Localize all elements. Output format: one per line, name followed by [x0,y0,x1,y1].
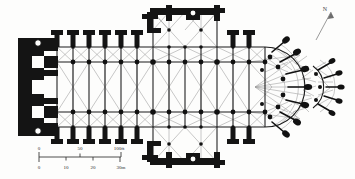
transept-buttress-n3-head [209,8,225,13]
chapel-pier [314,98,318,102]
buttress-choir-s-1 [231,127,236,141]
pier [119,60,124,65]
chapel-pier [314,72,318,76]
transept-pier [167,142,171,146]
canvas-background [0,0,355,179]
buttress-head-n-5 [115,30,127,35]
buttress-s-1 [55,127,60,141]
buttress-choir-n-1 [231,33,236,47]
pier [135,110,140,115]
buttress-head-n-6 [131,30,143,35]
transept-pier [167,28,171,32]
pier [87,60,92,65]
chevet-pier [281,93,286,98]
buttress-head-s-2 [67,139,79,144]
crossing-pier [150,109,156,115]
chevet-pier [260,102,264,106]
pier [231,60,236,65]
buttress-choir-s-2-head [243,139,255,144]
transept-pier [199,28,203,32]
transept-buttress-nw-head [142,14,158,19]
wall-pier [103,45,107,49]
tower-pier-n-inner [32,68,44,80]
buttress-head-s-1 [51,139,63,144]
buttress-choir-n-2-head [243,30,255,35]
chevet-pier [276,65,281,70]
narthex-pier-n [44,70,58,76]
pier [119,110,124,115]
buttress-n-3 [87,33,92,47]
transept-buttress-s2-head [161,160,177,165]
transept-pier [199,142,203,146]
plan-drawing: N 0 50 100ft 0 10 20 30m [0,0,355,179]
west-inner-wall [25,38,32,136]
pier [103,110,108,115]
west-portal-north [44,56,58,68]
wall-pier [135,125,139,129]
scale-label-m-10: 10 [64,165,70,170]
pier [71,60,76,65]
pier [167,60,172,65]
wall-pier [199,45,203,49]
wall-pier [103,125,107,129]
buttress-s-2 [71,127,76,141]
north-portal-turret [190,10,196,16]
buttress-choir-n-1-head [227,30,239,35]
buttress-head-s-4 [99,139,111,144]
transept-side-buttress-n [147,28,161,33]
pier [135,60,140,65]
pier [183,110,188,115]
buttress-n-1 [55,33,60,47]
pier [263,110,268,115]
pier [263,60,268,65]
wall-pier [87,125,91,129]
wall-pier [135,45,139,49]
west-portal-south [44,106,58,118]
buttress-n-2 [71,33,76,47]
buttress-n-5 [119,33,124,47]
buttress-head-s-3 [83,139,95,144]
pier [247,60,252,65]
chevet-pier [281,77,286,82]
pier [231,110,236,115]
buttress-head-s-6 [131,139,143,144]
scale-label-ft-50: 50 [78,146,84,151]
transept-buttress-s3-head [209,160,225,165]
pier [103,60,108,65]
chevet-pier [268,115,273,120]
wall-pier [87,45,91,49]
stair-turret-nw [35,40,41,46]
scale-label-ft-100: 100ft [114,146,125,151]
pier [87,110,92,115]
buttress-choir-s-2 [247,127,252,141]
wall-pier [183,125,187,129]
buttress-head-n-2 [67,30,79,35]
north-arrow-label: N [323,6,328,12]
buttress-cap [304,84,312,90]
wall-pier [119,125,123,129]
cathedral-plan-figure: N 0 50 100ft 0 10 20 30m [0,0,355,179]
buttress-choir-s-1-head [227,139,239,144]
narthex-pier-s [44,98,58,104]
buttress-n-4 [103,33,108,47]
wall-pier [167,125,171,129]
buttress-s-6 [135,127,140,141]
chapel-buttress-cap [337,84,344,89]
buttress-s-4 [103,127,108,141]
transept-buttress-sw-head [142,155,158,160]
buttress-s-3 [87,127,92,141]
buttress-s-5 [119,127,124,141]
wall-pier [183,45,187,49]
buttress-n-6 [135,33,140,47]
wall-pier [71,45,75,49]
pier [199,60,204,65]
chapel-pier [318,85,322,89]
crossing-pier [150,59,156,65]
scale-label-m-30: 30m [117,165,126,170]
chevet-pier [268,55,273,60]
pier [183,60,188,65]
south-portal-turret [190,156,196,162]
buttress-head-n-1 [51,30,63,35]
pier [71,110,76,115]
buttress-head-n-4 [99,30,111,35]
